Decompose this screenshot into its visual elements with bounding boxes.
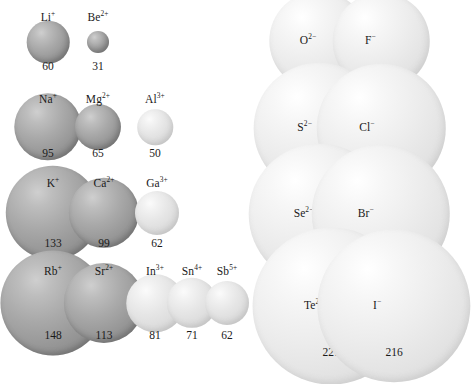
ion-label: Na+: [39, 94, 57, 106]
ion-label: Sr2+: [95, 266, 114, 278]
ion-label: Ca2+: [93, 178, 114, 190]
ion-sphere: [135, 191, 179, 235]
ion-label: S2−: [297, 122, 312, 134]
ion-radius-value: 62: [151, 238, 163, 250]
ion-label: Sn4+: [182, 266, 202, 278]
ion-radius-value: 50: [149, 148, 161, 160]
ion-label: Br−: [358, 208, 374, 220]
ion-radius-value: 81: [149, 330, 161, 342]
ion-label: Li+: [41, 12, 56, 24]
ion-sphere: [75, 104, 121, 150]
ion-label: Al3+: [145, 94, 165, 106]
ion-radius-value: 65: [92, 148, 104, 160]
ion-label: Se2−: [294, 208, 314, 220]
ion-radius-value: 148: [44, 330, 61, 342]
ion-radius-value: 133: [44, 238, 61, 250]
ion-radius-value: 62: [221, 330, 233, 342]
ion-label: Mg2+: [86, 94, 110, 106]
ion-radius-value: 31: [92, 61, 104, 73]
ion-radius-value: 60: [42, 61, 54, 73]
ion-sphere: [87, 31, 109, 53]
ion-radius-value: 71: [186, 330, 198, 342]
ion-label: Cl−: [359, 122, 374, 134]
ion-label: F−: [365, 35, 376, 47]
ion-radius-value: 95: [42, 148, 54, 160]
ion-radius-value: 99: [98, 238, 110, 250]
ion-label: Ga3+: [146, 178, 168, 190]
ion-label: I−: [373, 300, 381, 312]
ion-sphere: [317, 229, 470, 382]
ion-sphere: [205, 281, 249, 325]
ion-label: O2−: [300, 35, 316, 47]
ion-label: Be2+: [87, 12, 108, 24]
ion-radius-value: 113: [96, 330, 113, 342]
ion-radius-value: 216: [385, 347, 402, 359]
ion-label: K+: [47, 178, 60, 190]
ion-sphere: [137, 109, 173, 145]
ion-label: In3+: [146, 266, 164, 278]
ion-label: Sb5+: [217, 266, 237, 278]
ion-sphere: [27, 21, 70, 64]
ion-label: Rb+: [44, 266, 62, 278]
